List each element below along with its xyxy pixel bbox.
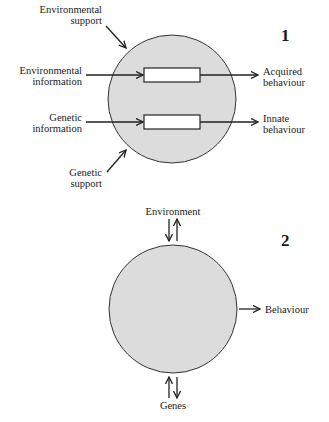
label-genes: Genes — [148, 400, 198, 411]
label-line: behaviour — [263, 124, 305, 135]
label-line: Innate — [263, 113, 305, 124]
label-line: Acquired — [263, 66, 305, 77]
label-acquired-behaviour: Acquired behaviour — [263, 66, 305, 88]
organism-circle-1 — [108, 35, 236, 163]
label-environmental-information: Environmental information — [4, 65, 82, 87]
organism-circle-2 — [109, 245, 237, 373]
acquired-process-box — [144, 68, 200, 82]
diagram-1 — [86, 26, 258, 172]
environmental-support-arrow — [106, 26, 126, 48]
label-line: behaviour — [263, 77, 305, 88]
label-line: Environmental — [4, 65, 82, 76]
innate-process-box — [144, 115, 200, 129]
label-line: support — [40, 178, 102, 189]
diagram-number-1: 1 — [281, 26, 290, 46]
label-line: information — [4, 123, 82, 134]
label-genetic-information: Genetic information — [4, 112, 82, 134]
label-line: Environmental — [22, 4, 102, 15]
label-line: support — [22, 15, 102, 26]
diagram-2 — [109, 219, 260, 398]
label-innate-behaviour: Innate behaviour — [263, 113, 305, 135]
label-genetic-support: Genetic support — [40, 167, 102, 189]
label-behaviour: Behaviour — [265, 304, 309, 315]
label-line: information — [4, 76, 82, 87]
label-line: Genetic — [40, 167, 102, 178]
label-environment: Environment — [133, 206, 213, 217]
diagram-number-2: 2 — [281, 231, 290, 251]
label-line: Genetic — [4, 112, 82, 123]
label-environmental-support: Environmental support — [22, 4, 102, 26]
genetic-support-arrow — [107, 150, 126, 172]
